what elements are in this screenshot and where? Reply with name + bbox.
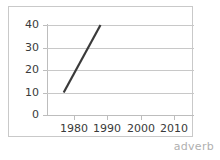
series-line [64, 25, 101, 93]
watermark-label: adverb [174, 141, 214, 153]
data-series-layer [9, 7, 194, 138]
chart-frame: 403020100 1980199020002010 [8, 6, 193, 137]
